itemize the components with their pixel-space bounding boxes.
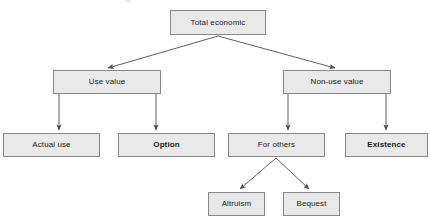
node-for-others-label: For others	[258, 141, 295, 149]
taxonomy-diagram: o	[0, 0, 430, 221]
edge-total-to-non-use-value	[218, 36, 335, 68]
node-total-economic-label: Total economic	[191, 19, 246, 27]
node-bequest-label: Bequest	[296, 200, 326, 208]
node-altruism[interactable]: Altruism	[208, 192, 265, 216]
node-non-use-value[interactable]: Non-use value	[283, 70, 391, 94]
node-non-use-value-label: Non-use value	[311, 78, 364, 86]
node-option-label: Option	[153, 141, 179, 149]
node-altruism-label: Altruism	[222, 200, 252, 208]
clipped-caption-glyph: o	[126, 0, 131, 4]
node-actual-use[interactable]: Actual use	[3, 133, 100, 157]
edge-for-others-to-bequest	[276, 158, 309, 189]
edge-for-others-to-altruism	[240, 158, 276, 189]
node-for-others[interactable]: For others	[228, 133, 325, 157]
node-use-value[interactable]: Use value	[53, 70, 161, 94]
node-bequest[interactable]: Bequest	[283, 192, 340, 216]
edge-total-to-use-value	[108, 36, 218, 68]
node-total-economic[interactable]: Total economic	[170, 10, 266, 35]
node-existence[interactable]: Existence	[345, 133, 428, 157]
node-option[interactable]: Option	[118, 133, 215, 157]
node-use-value-label: Use value	[89, 78, 125, 86]
node-actual-use-label: Actual use	[32, 141, 70, 149]
node-existence-label: Existence	[367, 141, 405, 149]
